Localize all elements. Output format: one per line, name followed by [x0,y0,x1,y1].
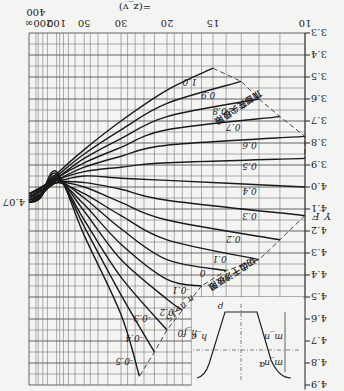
curve-label: 0.3 [242,211,257,221]
svg-text:α: α [259,360,265,370]
curve-label: -0.1 [172,285,189,295]
curve-label: 0.6 [242,140,257,150]
curve-label: -0.3 [133,313,151,323]
curve-x--0.4 [29,173,154,352]
curve-label: 0.9 [201,90,216,100]
curve-label: 1.0 [182,77,197,87]
y-tick-label: 4.0 [311,181,327,192]
y-tick-label: 4.2 [311,225,327,236]
x-tick-label: 10 [299,18,312,29]
y-tick-label: 4.7 [311,335,327,346]
x-tick-label: 50 [78,18,91,29]
x-tick-label: 30 [115,18,128,29]
curve-label: -0.4 [125,333,143,343]
y-axis-label: Y_F [311,210,331,222]
curve-label: 0.7 [226,122,241,132]
svg-text:m_n: m_n [264,331,283,342]
curve-label: 0.2 [226,234,241,244]
y-tick-label: 3.8 [311,137,327,148]
curve-label: 0.1 [212,254,226,264]
y-tick-label: 3.9 [311,159,327,170]
y-tick-label: 3.5 [311,71,327,82]
y-tick-label: 4.8 [311,357,327,368]
infinity-value-label: 4.07 [3,197,25,208]
y-tick-label: 3.3 [311,27,327,38]
y-tick-label: 3.6 [311,93,327,104]
svg-text:h_f0: h_f0 [177,327,197,338]
tooth-form-factor-chart: 3.33.43.53.63.73.83.94.04.14.24.34.44.54… [0,0,344,391]
x-tick-label: 15 [207,18,220,29]
x-tick-label: ∞ [25,18,33,29]
y-tick-label: 4.6 [311,313,327,324]
x-axis-label: =(z_v) [119,1,151,13]
x-tick-label: 200 [33,18,52,29]
y-tick-label: 3.7 [311,115,327,126]
y-tick-label: 4.5 [311,291,327,302]
curve-label: 0 [199,268,205,278]
curve-label: 0.4 [242,186,257,196]
y-tick-label: 3.4 [311,49,327,60]
x-tick-label: 400 [26,7,45,18]
curve-label: -0.5 [115,356,133,366]
y-tick-label: 4.4 [311,269,327,280]
chart-svg: 3.33.43.53.63.73.83.94.04.14.24.34.44.54… [0,0,344,391]
x-tick-label: 20 [161,18,174,29]
svg-text:m_n: m_n [264,357,283,368]
y-tick-label: 4.9 [311,379,327,390]
tooth-profile-inset: m_nm_nh_ah_f0αρ [177,297,303,383]
y-tick-label: 4.3 [311,247,327,258]
curve-label: 0.5 [242,161,257,171]
svg-text:ρ: ρ [217,302,224,312]
